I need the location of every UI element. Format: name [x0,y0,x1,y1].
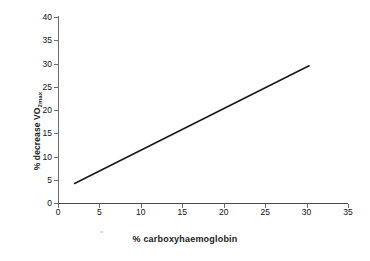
x-axis-line [58,203,348,204]
x-axis-tick-label: 10 [130,208,152,217]
x-axis-tick-label: 15 [171,208,193,217]
x-axis-tick-label: 25 [254,208,276,217]
scan-artifact-speck [100,231,103,233]
x-axis-tick-label: 5 [88,208,110,217]
y-axis-title-subscript: 2max [37,91,43,107]
y-axis-tick-mark [54,64,58,65]
y-axis-tick-mark [54,40,58,41]
y-axis-tick-label: 40 [36,13,52,22]
y-axis-tick-mark [54,87,58,88]
y-axis-title: % decrease VO2max [32,56,42,206]
x-axis-tick-label: 30 [296,208,318,217]
y-axis-tick-mark [54,17,58,18]
series-line-vo2max [75,66,309,184]
x-axis-tick-label: 20 [213,208,235,217]
x-axis-tick-label: 35 [337,208,359,217]
series-layer [0,0,370,261]
x-axis-tick-label: 0 [47,208,69,217]
x-axis-title: % carboxyhaemoglobin [0,234,370,244]
y-axis-tick-mark [54,133,58,134]
y-axis-tick-mark [54,180,58,181]
y-axis-line [58,16,59,204]
chart-container: 0510152025303540 05101520253035 % decrea… [0,0,370,261]
y-axis-title-base: % decrease VO [32,107,42,170]
y-axis-tick-mark [54,110,58,111]
y-axis-tick-label: 35 [36,36,52,45]
y-axis-tick-mark [54,157,58,158]
